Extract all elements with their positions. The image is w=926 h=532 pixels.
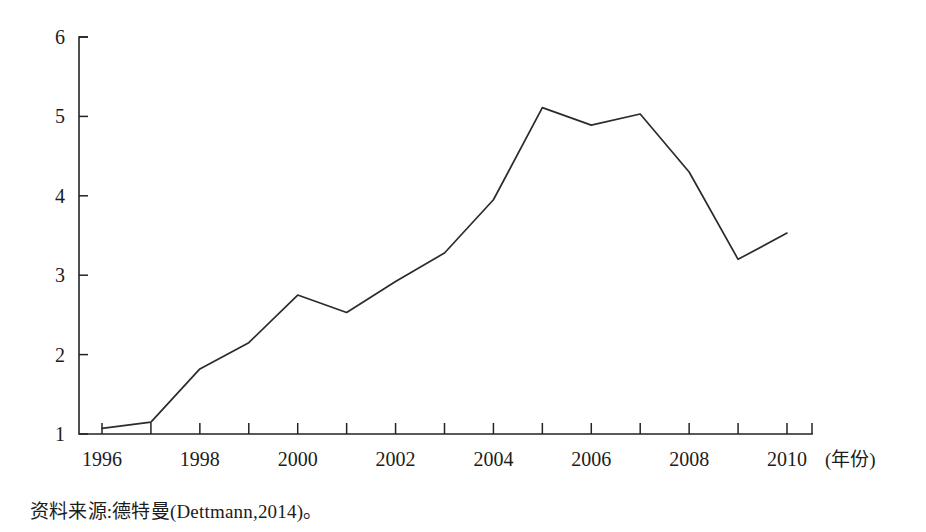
x-tick-label: 2008 xyxy=(669,448,709,470)
x-tick-label: 2006 xyxy=(571,448,611,470)
source-caption: 资料来源:德特曼(Dettmann,2014)。 xyxy=(30,496,322,523)
y-tick-label: 2 xyxy=(55,344,65,366)
y-tick-label: 6 xyxy=(55,26,65,48)
x-tick-label: 1998 xyxy=(180,448,220,470)
y-tick-label: 1 xyxy=(55,423,65,445)
x-tick-label: 2010 xyxy=(767,448,807,470)
y-axis-tick-labels: 123456 xyxy=(55,26,65,445)
x-axis-title-label: (年份) xyxy=(825,449,876,471)
x-tick-label: 2000 xyxy=(278,448,318,470)
chart-tick-marks xyxy=(79,37,787,434)
y-tick-label: 3 xyxy=(55,264,65,286)
x-tick-label: 2004 xyxy=(473,448,513,470)
chart-axes xyxy=(79,37,812,434)
data-series-line xyxy=(102,108,787,429)
chart-plot-area: 123456 19961998200020022004200620082010 … xyxy=(0,0,926,490)
y-tick-label: 4 xyxy=(55,185,65,207)
x-tick-label: 1996 xyxy=(82,448,122,470)
chart-data-series xyxy=(102,108,787,429)
x-axis-tick-labels: 19961998200020022004200620082010 xyxy=(82,448,807,470)
line-chart: 123456 19961998200020022004200620082010 … xyxy=(0,0,926,490)
x-axis-title: (年份) xyxy=(825,449,876,471)
x-tick-label: 2002 xyxy=(376,448,416,470)
y-tick-label: 5 xyxy=(55,105,65,127)
figure-root: 123456 19961998200020022004200620082010 … xyxy=(0,0,926,532)
axis-lines xyxy=(79,37,812,434)
